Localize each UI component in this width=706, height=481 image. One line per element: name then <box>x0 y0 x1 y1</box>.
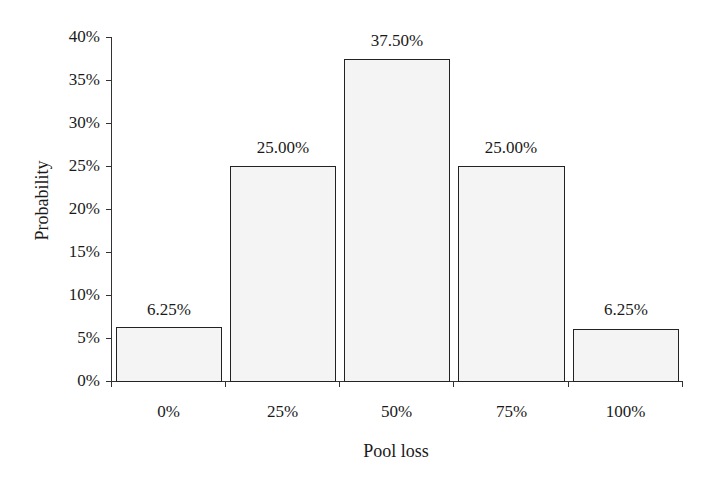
bar-25pct <box>230 166 336 382</box>
y-tick-label: 40% <box>40 28 100 46</box>
bar-value-label: 6.25% <box>566 300 686 320</box>
x-tick <box>111 381 112 387</box>
bar-value-label: 25.00% <box>223 138 343 158</box>
x-category-label: 50% <box>344 402 449 422</box>
y-tick-label: 25% <box>40 157 100 175</box>
y-tick <box>106 37 112 38</box>
y-tick <box>106 295 112 296</box>
y-tick-label: 0% <box>40 372 100 390</box>
bar-value-label: 6.25% <box>109 300 229 320</box>
y-tick <box>106 166 112 167</box>
bar-50pct <box>344 59 450 382</box>
y-tick-label: 5% <box>40 329 100 347</box>
bar-value-label: 25.00% <box>451 138 571 158</box>
x-tick <box>339 381 340 387</box>
y-tick-label: 10% <box>40 286 100 304</box>
y-tick <box>106 209 112 210</box>
y-tick-label: 30% <box>40 114 100 132</box>
x-tick <box>682 381 683 387</box>
x-category-label: 100% <box>573 402 678 422</box>
x-tick <box>453 381 454 387</box>
bar-75pct <box>458 166 565 382</box>
y-tick-label: 15% <box>40 243 100 261</box>
x-category-label: 25% <box>230 402 335 422</box>
x-tick <box>225 381 226 387</box>
x-category-label: 75% <box>459 402 564 422</box>
y-tick <box>106 80 112 81</box>
y-tick <box>106 252 112 253</box>
x-tick <box>568 381 569 387</box>
y-tick-label: 20% <box>40 200 100 218</box>
y-tick-label: 35% <box>40 71 100 89</box>
y-tick <box>106 338 112 339</box>
x-axis-title: Pool loss <box>296 441 496 462</box>
bar-100pct <box>573 329 679 382</box>
bar-0pct <box>116 327 222 382</box>
y-tick <box>106 123 112 124</box>
bar-value-label: 37.50% <box>337 31 457 51</box>
x-category-label: 0% <box>116 402 221 422</box>
